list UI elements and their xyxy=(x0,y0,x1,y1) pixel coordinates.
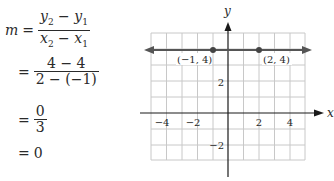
point-label-2-4: (2, 4) xyxy=(263,54,290,65)
y-axis-arrow-icon xyxy=(225,22,232,31)
y-tick-neg2: −2 xyxy=(209,140,224,151)
left-arrow-icon xyxy=(144,46,154,54)
right-arrow-icon xyxy=(302,46,312,54)
x-tick-4: 4 xyxy=(287,117,293,128)
point-2-4 xyxy=(256,47,262,53)
y-axis xyxy=(225,22,232,177)
x-axis-arrow-icon xyxy=(314,110,324,117)
y-axis-label: y xyxy=(223,4,231,18)
x-tick-neg2: −2 xyxy=(186,117,201,128)
x-axis-label: x xyxy=(327,106,334,120)
point-label-neg1-4: (−1, 4) xyxy=(177,54,212,65)
point-neg1-4 xyxy=(210,47,216,53)
x-axis xyxy=(140,110,324,117)
coordinate-graph: x y −4 −2 2 4 2 −2 (−1, 4) (2, 4) xyxy=(0,0,334,181)
y-tick-2: 2 xyxy=(218,77,224,88)
x-tick-neg4: −4 xyxy=(155,117,170,128)
x-tick-2: 2 xyxy=(256,117,262,128)
